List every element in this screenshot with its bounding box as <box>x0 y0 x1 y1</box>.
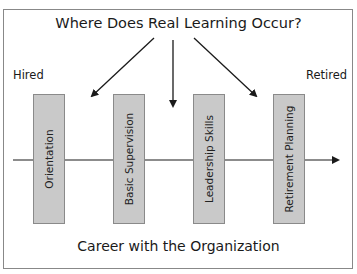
stage-bar-retirement-planning: Retirement Planning <box>273 94 305 224</box>
diagram-footer: Career with the Organization <box>0 238 357 254</box>
arrow-to-orientation-gap <box>92 38 154 96</box>
stage-label: Basic Supervision <box>123 113 135 206</box>
stage-label: Retirement Planning <box>283 106 295 213</box>
arrow-to-retirement-gap <box>194 38 256 96</box>
stage-bar-leadership-skills: Leadership Skills <box>193 94 225 224</box>
stage-label: Orientation <box>43 129 55 188</box>
stage-label: Leadership Skills <box>203 115 215 203</box>
stage-bar-basic-supervision: Basic Supervision <box>113 94 145 224</box>
stage-bar-orientation: Orientation <box>33 94 65 224</box>
